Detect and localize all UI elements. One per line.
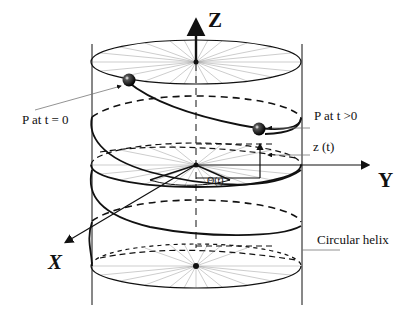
p-later-label: P at t >0: [314, 108, 357, 124]
z-axis-label: Z: [208, 8, 222, 33]
p-initial-label: P at t = 0: [22, 112, 69, 128]
diagram-canvas: [0, 0, 419, 324]
z-t-label: z (t): [313, 139, 334, 155]
x-axis-label: X: [48, 250, 62, 275]
helix-diagram: Z Y X P at t = 0 P at t >0 z (t) Θ(t) Ci…: [0, 0, 419, 324]
theta-t-label: Θ(t): [207, 175, 224, 186]
particle-t0: [123, 74, 136, 87]
particle-t: [253, 123, 266, 136]
x-axis-arrow: [66, 165, 196, 242]
helix-label: Circular helix: [317, 232, 389, 248]
helix-inner-dashes: [100, 144, 296, 260]
y-axis-label: Y: [378, 168, 393, 193]
bottom-hub: [193, 263, 199, 269]
leader-p-initial: [35, 86, 121, 110]
helix-front: [89, 82, 301, 266]
